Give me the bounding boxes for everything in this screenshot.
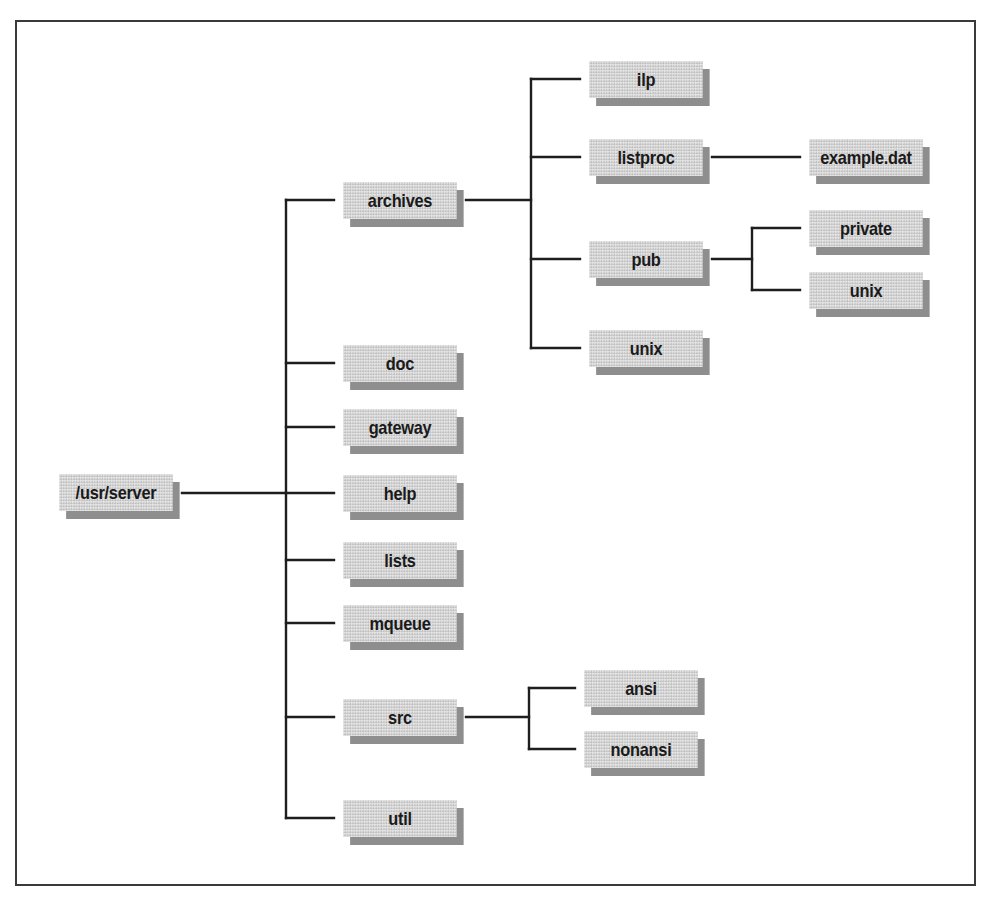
node-label: example.dat [820, 147, 912, 169]
node-label: src [388, 707, 412, 729]
node-label: unix [630, 338, 663, 360]
node-util[interactable]: util [343, 800, 457, 837]
node-doc[interactable]: doc [343, 345, 457, 382]
node-ilp[interactable]: ilp [589, 61, 703, 98]
node-private[interactable]: private [809, 210, 923, 247]
node-help[interactable]: help [343, 475, 457, 512]
node-gateway[interactable]: gateway [343, 409, 457, 446]
node-label: pub [631, 249, 660, 271]
node-label: doc [386, 353, 414, 375]
node-label: util [388, 808, 411, 830]
node-label: listproc [618, 147, 675, 169]
node-label: archives [368, 190, 432, 212]
node-lists[interactable]: lists [343, 542, 457, 579]
node-pub-unix[interactable]: unix [809, 272, 923, 309]
node-label: nonansi [611, 739, 672, 761]
node-src[interactable]: src [343, 699, 457, 736]
node-nonansi[interactable]: nonansi [584, 731, 698, 768]
node-label: unix [850, 280, 883, 302]
node-archives[interactable]: archives [343, 182, 457, 219]
node-mqueue[interactable]: mqueue [343, 605, 457, 642]
node-label: ilp [637, 69, 655, 91]
node-pub[interactable]: pub [589, 241, 703, 278]
node-label: lists [384, 550, 415, 572]
node-label: private [840, 218, 892, 240]
node-example-dat[interactable]: example.dat [809, 139, 923, 176]
node-label: help [384, 483, 417, 505]
node-listproc[interactable]: listproc [589, 139, 703, 176]
node-usr-server[interactable]: /usr/server [59, 474, 173, 511]
node-label: ansi [625, 678, 657, 700]
node-ansi[interactable]: ansi [584, 670, 698, 707]
tree-connectors [0, 0, 991, 902]
node-label: /usr/server [76, 482, 157, 504]
node-label: mqueue [369, 613, 430, 635]
node-label: gateway [369, 417, 432, 439]
node-archives-unix[interactable]: unix [589, 330, 703, 367]
